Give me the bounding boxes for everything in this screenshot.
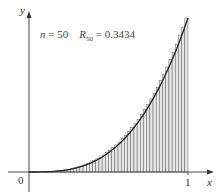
riemann-bar [143, 110, 146, 172]
riemann-bar [172, 52, 175, 172]
riemann-bar [124, 135, 127, 172]
n-value: 50 [57, 28, 68, 40]
riemann-bar [147, 104, 150, 172]
riemann-bar [182, 27, 185, 172]
x-axis-arrow-icon [207, 170, 214, 175]
riemann-bar [134, 124, 137, 172]
riemann-bar [109, 150, 112, 172]
origin-label: 0 [18, 174, 24, 186]
n-label: n [40, 28, 46, 40]
riemann-bar [140, 115, 143, 172]
riemann-bar [102, 155, 105, 172]
riemann-bar [131, 128, 134, 172]
riemann-annotation: n = 50 R50 = 0.3434 [40, 28, 135, 43]
y-axis-arrow-icon [27, 11, 32, 18]
r-equals: = [96, 28, 102, 40]
riemann-bar [105, 153, 108, 172]
riemann-bar [169, 60, 172, 172]
riemann-bar [159, 81, 162, 172]
riemann-bar [150, 99, 153, 172]
riemann-bar [118, 142, 121, 172]
riemann-bar [156, 87, 159, 172]
riemann-bar [153, 93, 156, 172]
x-axis-label: x [207, 176, 212, 188]
r-label: R [79, 28, 86, 40]
n-equals: = [48, 28, 54, 40]
riemann-bar [128, 132, 131, 172]
riemann-bar [121, 139, 124, 172]
riemann-bar [163, 74, 166, 172]
r-value: 0.3434 [105, 28, 135, 40]
riemann-bar [112, 148, 115, 172]
riemann-bar [166, 67, 169, 172]
riemann-bar [115, 145, 118, 172]
riemann-bar [178, 36, 181, 172]
riemann-bar [137, 119, 140, 172]
r-subscript: 50 [86, 35, 93, 43]
y-axis-label: y [20, 4, 25, 16]
riemann-bar [175, 44, 178, 172]
riemann-bar [185, 18, 188, 172]
x-tick-label-one: 1 [185, 176, 191, 188]
